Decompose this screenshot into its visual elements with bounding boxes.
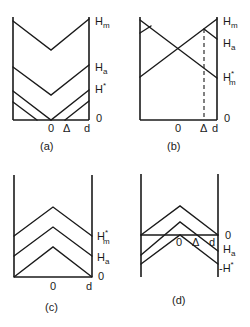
field-level-label: H*	[95, 81, 106, 95]
field-profile-line	[14, 227, 92, 256]
field-level-label: 0	[224, 112, 230, 124]
field-profile-line	[13, 65, 89, 95]
field-level-label: H*m	[223, 69, 236, 87]
axis-label: Δ	[192, 236, 200, 248]
panel-b: HmHaH*m00Δd	[140, 15, 238, 134]
axis-label: d	[86, 280, 92, 292]
field-level-label: 0	[96, 112, 102, 124]
field-profile-diagram: HmHaH*00ΔdHmHaH*m00ΔdH*mHa00d0Ha-H*0Δd(a…	[0, 0, 250, 327]
field-level-label: Ha	[95, 61, 108, 76]
field-profile-line	[13, 19, 89, 50]
field-profile-line	[14, 247, 92, 277]
field-level-label: -H*	[219, 260, 234, 274]
field-level-label: 0	[225, 229, 231, 241]
field-level-label: Hm	[95, 15, 110, 30]
axis-label: Δ	[63, 122, 71, 134]
field-profile-line	[13, 102, 37, 120]
axis-label: 0	[176, 236, 182, 248]
panel-d: 0Ha-H*0Δd	[141, 174, 236, 277]
axis-label: d	[209, 236, 215, 248]
panel-caption: (a)	[40, 140, 53, 152]
field-level-label: H*m	[97, 228, 110, 246]
field-profile-line	[140, 26, 151, 33]
field-level-label: 0	[98, 270, 104, 282]
panel-caption: (c)	[45, 301, 58, 313]
field-profile-line	[140, 20, 217, 78]
field-profile-line	[65, 101, 89, 120]
field-profile-line	[204, 29, 217, 39]
field-profile-line	[140, 19, 217, 77]
field-profile-line	[141, 206, 218, 235]
field-level-label: Ha	[97, 251, 110, 266]
axis-label: 0	[50, 280, 56, 292]
field-level-label: Hm	[223, 15, 238, 30]
axis-label: 0	[48, 122, 54, 134]
panel-c: H*mHa00d	[14, 175, 110, 292]
field-profile-line	[14, 207, 92, 236]
panel-a: HmHaH*00Δd	[13, 15, 110, 134]
field-level-label: Ha	[223, 243, 236, 258]
panel-caption: (b)	[167, 140, 180, 152]
axis-label: d	[84, 122, 90, 134]
axis-label: d	[212, 122, 218, 134]
axis-label: 0	[175, 122, 181, 134]
axis-label: Δ	[200, 122, 208, 134]
panel-caption: (d)	[172, 294, 185, 306]
field-level-label: Ha	[223, 37, 236, 52]
